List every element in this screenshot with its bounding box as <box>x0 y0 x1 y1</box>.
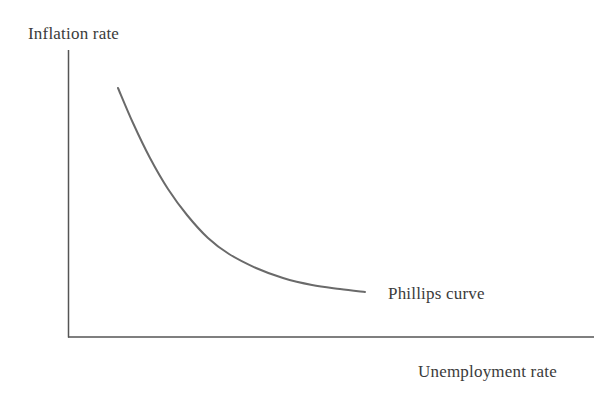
phillips-curve-figure: Inflation rate Unemployment rate Phillip… <box>0 0 594 398</box>
chart-canvas <box>0 0 594 398</box>
phillips-curve-line <box>118 88 365 292</box>
phillips-curve-label: Phillips curve <box>388 285 485 302</box>
x-axis-label: Unemployment rate <box>418 363 557 380</box>
y-axis-label: Inflation rate <box>28 25 119 42</box>
